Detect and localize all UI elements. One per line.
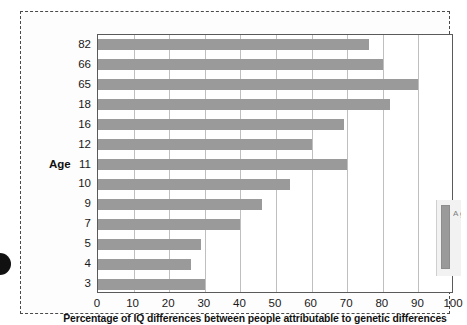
y-axis-tick-label: 82 — [53, 38, 91, 50]
y-axis-tick-label: 4 — [53, 257, 91, 269]
x-axis-tick-label: 0 — [77, 297, 117, 309]
y-axis-tick-label: 10 — [53, 177, 91, 189]
x-axis-title: Percentage of IQ differences between peo… — [45, 313, 465, 324]
x-axis-tick-label: 80 — [362, 297, 402, 309]
x-axis-tick-label: 90 — [397, 297, 437, 309]
y-axis-tick-label: 66 — [53, 58, 91, 70]
x-axis-tick-label: 10 — [113, 297, 153, 309]
y-axis-tick-label: 3 — [53, 277, 91, 289]
x-axis-tick-label: 60 — [291, 297, 331, 309]
y-axis-tick-label: 9 — [53, 197, 91, 209]
page-edge-artifact — [0, 253, 11, 275]
x-axis-tick-label: 70 — [326, 297, 366, 309]
x-axis-tick-label: 100 — [433, 297, 467, 309]
y-axis-tick-label: 7 — [53, 217, 91, 229]
side-legend-text: A g 9 — [453, 208, 461, 219]
y-axis-tick-label: 16 — [53, 118, 91, 130]
y-axis-title: Age — [49, 158, 89, 170]
y-axis-tick-label: 18 — [53, 98, 91, 110]
side-legend-panel: A g 9 — [436, 200, 461, 276]
y-axis-tick-label: 65 — [53, 78, 91, 90]
x-axis-tick-label: 30 — [184, 297, 224, 309]
y-axis-tick-label: 12 — [53, 138, 91, 150]
x-axis-tick-label: 20 — [148, 297, 188, 309]
y-axis-tick-label: 5 — [53, 237, 91, 249]
side-legend-swatch — [441, 205, 450, 269]
x-axis-tick-labels: 0102030405060708090100 — [97, 297, 453, 313]
x-axis-tick-label: 50 — [255, 297, 295, 309]
x-axis-tick-label: 40 — [219, 297, 259, 309]
figure-frame: 826665181612111097543 Age 01020304050607… — [20, 11, 450, 314]
